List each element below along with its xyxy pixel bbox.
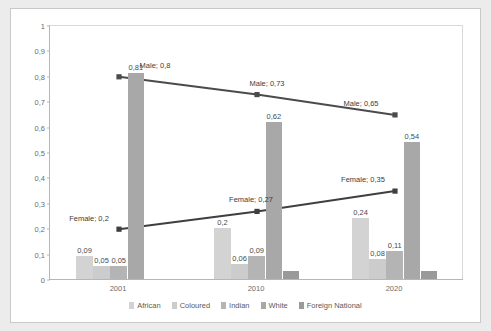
bar-value-label: 0,09: [249, 246, 264, 255]
legend-item-african[interactable]: African: [129, 301, 160, 310]
bar-indian: 0,09: [248, 256, 265, 279]
bar-foreign-national: [283, 271, 300, 279]
line-point-label: Female; 0,2: [69, 214, 109, 223]
bar-value-label: 0,08: [370, 249, 385, 258]
y-axis-tick-mark: [47, 102, 50, 103]
line-marker-male: [116, 74, 121, 79]
legend-item-coloured[interactable]: Coloured: [172, 301, 210, 310]
bar-value-label: 0,62: [267, 112, 282, 121]
y-axis-tick-mark: [47, 254, 50, 255]
line-marker-female: [116, 227, 121, 232]
bar-coloured: 0,06: [231, 264, 248, 279]
legend-item-label: Coloured: [180, 301, 210, 310]
legend-item-label: African: [137, 301, 160, 310]
y-axis-tick-label: 0: [41, 276, 45, 285]
bar-value-label: 0,11: [388, 241, 402, 250]
y-axis-tick-label: 0,3: [35, 199, 45, 208]
y-axis-tick-label: 0,4: [35, 174, 45, 183]
bar-foreign-national: [421, 271, 438, 279]
x-axis-line: [49, 279, 463, 280]
line-marker-male: [392, 112, 397, 117]
bar-indian: 0,05: [110, 266, 127, 279]
bar-coloured: 0,08: [369, 259, 386, 279]
y-axis-tick-label: 0,8: [35, 72, 45, 81]
line-marker-male: [254, 92, 259, 97]
x-axis-tick-label: 2001: [110, 284, 127, 293]
chart-frame: 00,10,20,30,40,50,60,70,80,910,090,050,0…: [10, 8, 481, 323]
bar-value-label: 0,09: [77, 246, 92, 255]
bar-indian: 0,11: [386, 251, 403, 279]
bar-value-label: 0,2: [217, 218, 227, 227]
bar-value-label: 0,05: [94, 256, 109, 265]
bar-value-label: 0,54: [405, 132, 420, 141]
y-axis-tick-mark: [47, 203, 50, 204]
line-marker-female: [254, 209, 259, 214]
bar-white: 0,81: [128, 73, 145, 279]
legend-item-label: White: [269, 301, 288, 310]
bar-value-label: 0,05: [111, 256, 126, 265]
legend-swatch-icon: [299, 302, 304, 309]
chart-legend: AfricanColouredIndianWhiteForeign Nation…: [11, 301, 480, 310]
bar-african: 0,24: [352, 218, 369, 279]
bar-african: 0,09: [76, 256, 93, 279]
y-axis-tick-mark: [47, 229, 50, 230]
line-marker-female: [392, 189, 397, 194]
y-axis-tick-label: 0,9: [35, 47, 45, 56]
y-axis-tick-label: 0,1: [35, 250, 45, 259]
line-point-label: Female; 0,35: [341, 175, 385, 184]
plot-area: 00,10,20,30,40,50,60,70,80,910,090,050,0…: [49, 25, 463, 279]
x-axis-tick-label: 2010: [248, 284, 265, 293]
bar-african: 0,2: [214, 228, 231, 279]
legend-swatch-icon: [261, 302, 266, 309]
chart-figure: 00,10,20,30,40,50,60,70,80,910,090,050,0…: [0, 0, 491, 331]
y-axis-tick-label: 0,2: [35, 225, 45, 234]
legend-item-indian[interactable]: Indian: [221, 301, 249, 310]
bar-value-label: 0,24: [353, 208, 368, 217]
line-point-label: Male; 0,73: [249, 78, 284, 87]
legend-swatch-icon: [172, 302, 177, 309]
y-axis-tick-label: 0,7: [35, 98, 45, 107]
y-axis-tick-label: 0,6: [35, 123, 45, 132]
y-axis-tick-mark: [47, 178, 50, 179]
legend-item-white[interactable]: White: [261, 301, 288, 310]
y-axis-tick-mark: [47, 51, 50, 52]
y-axis-tick-mark: [47, 76, 50, 77]
y-axis-tick-label: 0,5: [35, 149, 45, 158]
y-axis-tick-label: 1: [41, 22, 45, 31]
legend-item-foreign-national[interactable]: Foreign National: [299, 301, 362, 310]
y-axis-tick-mark: [47, 26, 50, 27]
x-axis-tick-label: 2020: [386, 284, 403, 293]
bar-white: 0,54: [404, 142, 421, 279]
legend-item-label: Foreign National: [307, 301, 362, 310]
bar-coloured: 0,05: [93, 266, 110, 279]
legend-swatch-icon: [129, 302, 134, 309]
y-axis-tick-mark: [47, 153, 50, 154]
legend-item-label: Indian: [229, 301, 249, 310]
line-point-label: Female; 0,27: [229, 195, 273, 204]
legend-swatch-icon: [221, 302, 226, 309]
y-axis-tick-mark: [47, 127, 50, 128]
line-point-label: Male; 0,8: [140, 60, 171, 69]
line-point-label: Male; 0,65: [343, 98, 378, 107]
bar-value-label: 0,06: [232, 254, 247, 263]
